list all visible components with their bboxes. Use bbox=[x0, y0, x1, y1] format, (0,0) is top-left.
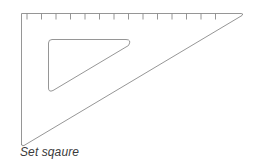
ruler-ticks bbox=[27, 14, 216, 20]
set-square-outline bbox=[22, 14, 243, 146]
set-square-diagram bbox=[0, 0, 259, 168]
figure-caption: Set sqaure bbox=[20, 145, 79, 159]
set-square-cutout bbox=[49, 40, 130, 92]
